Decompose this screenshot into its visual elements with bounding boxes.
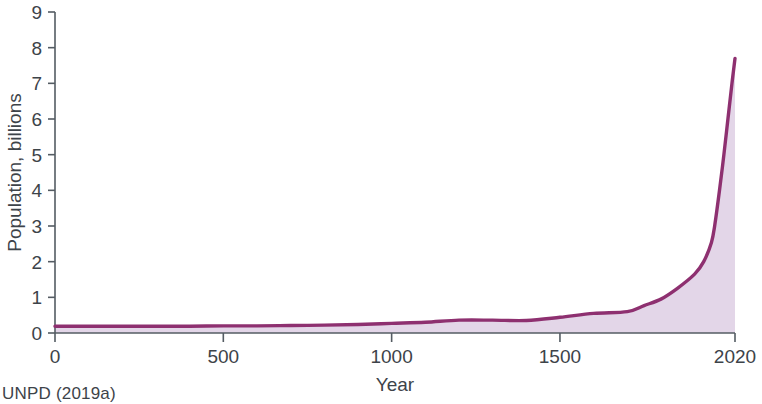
y-tick-label-3: 3 <box>31 216 42 237</box>
x-tick-label-0: 0 <box>50 346 61 367</box>
y-tick-label-0: 0 <box>31 323 42 344</box>
plot-area: 01234567890500100015002020YearPopulation… <box>4 2 756 395</box>
y-tick-label-7: 7 <box>31 73 42 94</box>
y-tick-label-4: 4 <box>31 180 42 201</box>
y-tick-label-9: 9 <box>31 2 42 23</box>
x-axis-title: Year <box>376 374 415 395</box>
y-tick-label-8: 8 <box>31 38 42 59</box>
y-tick-label-2: 2 <box>31 252 42 273</box>
y-tick-label-1: 1 <box>31 287 42 308</box>
x-tick-label-1500: 1500 <box>539 346 581 367</box>
x-tick-label-500: 500 <box>207 346 239 367</box>
series-line <box>55 58 735 326</box>
source-note: UNPD (2019a) <box>2 384 116 404</box>
y-axis-title: Population, billions <box>4 93 25 251</box>
y-tick-label-6: 6 <box>31 109 42 130</box>
x-tick-label-1000: 1000 <box>370 346 412 367</box>
x-tick-label-2020: 2020 <box>714 346 756 367</box>
series-area-fill <box>55 58 735 333</box>
y-tick-label-5: 5 <box>31 145 42 166</box>
